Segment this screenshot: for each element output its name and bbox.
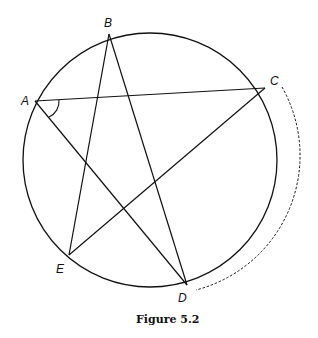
segment-ec — [69, 88, 265, 255]
circle — [23, 33, 277, 287]
angle-mark-a — [49, 100, 59, 117]
segment-bd — [109, 34, 187, 285]
label-b: B — [104, 16, 112, 30]
segment-be — [69, 34, 109, 255]
dashed-arc-cd — [196, 87, 300, 290]
figure-caption: Figure 5.2 — [136, 313, 199, 326]
geometry-figure: A B C D E Figure 5.2 — [0, 0, 318, 338]
segment-ad — [35, 101, 187, 285]
label-d: D — [178, 291, 187, 305]
label-c: C — [270, 74, 279, 88]
label-e: E — [56, 262, 65, 276]
label-a: A — [20, 94, 29, 108]
segment-ac — [35, 88, 265, 101]
